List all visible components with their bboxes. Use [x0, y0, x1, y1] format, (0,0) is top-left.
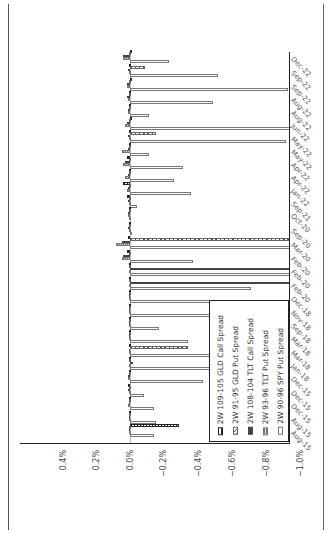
- bar: [130, 434, 154, 437]
- bar: [130, 60, 169, 63]
- legend-swatch-hollow: [278, 427, 283, 435]
- bar: [130, 282, 290, 284]
- bar: [130, 394, 144, 397]
- legend-swatch-crosshatch: [263, 427, 268, 435]
- value-axis-tick-label: −0.2%: [159, 450, 168, 477]
- bar: [130, 205, 137, 208]
- legend-swatch-dotted: [218, 427, 223, 435]
- page-rule-right: [323, 4, 324, 530]
- bar: [130, 192, 191, 195]
- bar: [130, 246, 290, 249]
- legend: 2W 109-105 GLD Call Spread 2W 91-95 GLD …: [209, 300, 289, 442]
- bar: [130, 346, 188, 349]
- bar: [130, 407, 154, 410]
- bar: [130, 179, 174, 182]
- bar: [130, 268, 290, 270]
- bar: [130, 166, 183, 169]
- bar: [130, 114, 149, 117]
- page-rule-left: [8, 4, 9, 530]
- bar: [130, 380, 203, 383]
- bar: [123, 163, 130, 166]
- bar: [130, 153, 149, 156]
- bar: [122, 257, 131, 260]
- bar: [130, 66, 145, 69]
- value-axis-tick-label: 0.0%: [126, 450, 135, 470]
- bar: [130, 88, 288, 91]
- bar: [130, 327, 159, 330]
- bar: [130, 140, 286, 143]
- bar: [130, 287, 251, 290]
- value-axis-tick-label: 0.4%: [59, 450, 68, 470]
- legend-item: 2W 108-104 TLT Call Spread: [246, 318, 255, 435]
- bar: [130, 260, 193, 263]
- bar: [130, 101, 213, 104]
- legend-item: 2W 91-95 GLD Put Spread: [231, 326, 240, 435]
- bar: [130, 74, 218, 77]
- legend-item: 2W 109-105 GLD Call Spread: [216, 315, 225, 435]
- legend-swatch-solid: [248, 427, 253, 435]
- bar: [129, 217, 131, 220]
- value-axis-line: [20, 443, 290, 444]
- bar: [116, 243, 130, 246]
- legend-label: 2W 108-104 TLT Call Spread: [246, 318, 255, 424]
- value-axis-tick-label: −1.0%: [296, 450, 305, 477]
- legend-item: 2W 90-96 SPY Put Spread: [276, 328, 285, 435]
- bar: [130, 424, 179, 427]
- bar: [123, 57, 130, 60]
- bar: [130, 340, 188, 343]
- legend-item: 2W 93-96 TLT Put Spread: [261, 330, 270, 435]
- value-axis-tick-label: −0.8%: [262, 450, 271, 477]
- bar: [130, 127, 290, 130]
- value-axis-tick-label: −0.4%: [194, 450, 203, 477]
- legend-label: 2W 109-105 GLD Call Spread: [216, 315, 225, 424]
- bar: [130, 238, 290, 241]
- legend-label: 2W 93-96 TLT Put Spread: [261, 330, 270, 424]
- bar: [122, 150, 131, 153]
- legend-swatch-hatched: [233, 427, 238, 435]
- bar: [130, 232, 132, 235]
- bar: [130, 132, 156, 135]
- legend-label: 2W 90-96 SPY Put Spread: [276, 328, 285, 424]
- value-axis-tick-label: 0.2%: [92, 450, 101, 470]
- value-axis-tick-label: −0.6%: [228, 450, 237, 477]
- legend-label: 2W 91-95 GLD Put Spread: [231, 326, 240, 424]
- bar: [130, 273, 290, 276]
